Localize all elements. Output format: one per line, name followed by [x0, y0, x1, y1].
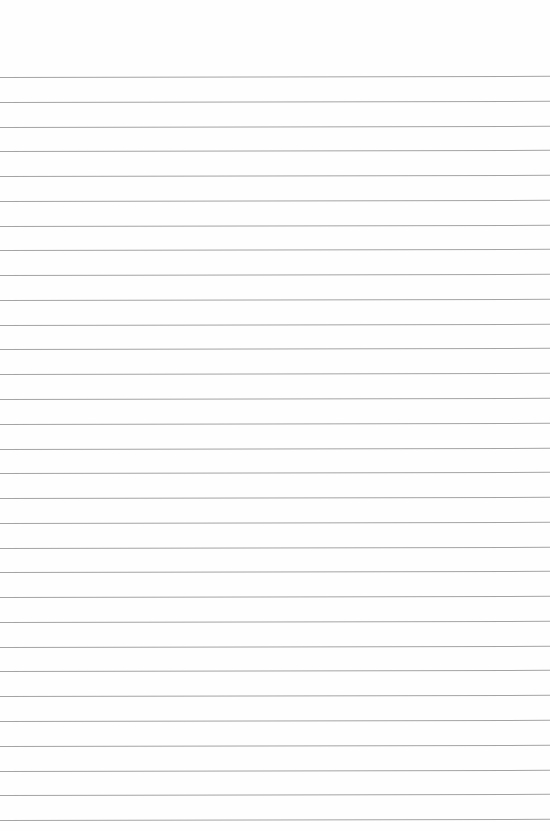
ruled-line: [0, 423, 550, 425]
ruled-line: [0, 646, 550, 648]
lined-paper: [0, 0, 550, 831]
ruled-line: [0, 695, 550, 697]
ruled-line: [0, 448, 550, 450]
ruled-line: [0, 571, 550, 573]
ruled-line: [0, 720, 550, 722]
ruled-line: [0, 76, 550, 78]
ruled-line: [0, 794, 550, 796]
ruled-line: [0, 348, 550, 350]
ruled-line: [0, 819, 550, 821]
ruled-line: [0, 547, 550, 549]
ruled-line: [0, 472, 550, 474]
ruled-line: [0, 596, 550, 598]
ruled-line: [0, 175, 550, 177]
ruled-line: [0, 770, 550, 772]
ruled-line: [0, 101, 550, 103]
ruled-line: [0, 522, 550, 524]
ruled-line: [0, 398, 550, 400]
ruled-line: [0, 299, 550, 301]
ruled-line: [0, 670, 550, 672]
ruled-line: [0, 745, 550, 747]
ruled-line: [0, 150, 550, 152]
ruled-line: [0, 126, 550, 128]
ruled-line: [0, 324, 550, 326]
ruled-line: [0, 621, 550, 623]
ruled-line: [0, 274, 550, 276]
ruled-line: [0, 497, 550, 499]
ruled-line: [0, 249, 550, 251]
ruled-line: [0, 373, 550, 375]
ruled-line: [0, 200, 550, 202]
ruled-line: [0, 225, 550, 227]
